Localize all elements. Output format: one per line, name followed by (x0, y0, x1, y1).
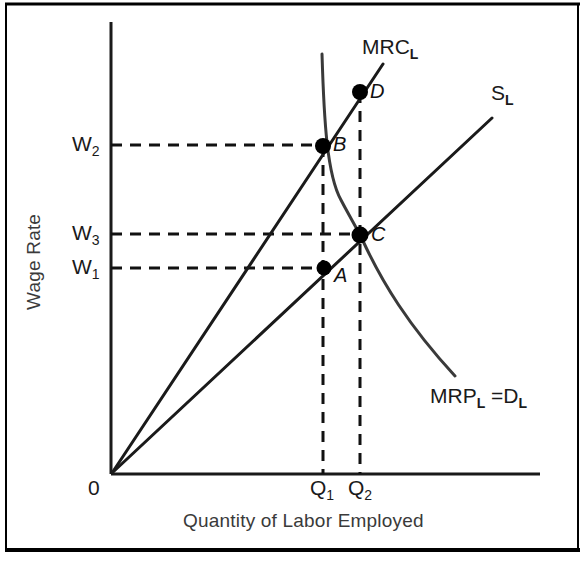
point-marker-a (317, 261, 332, 276)
curve-label-supply-base: S (491, 81, 505, 104)
y-tick-w2: W2 (72, 133, 100, 158)
curve-label-mrc-base: MRC (362, 35, 410, 58)
x-tick-q2-sub: 2 (364, 487, 372, 503)
curve-label-mrp-base: MRP (430, 384, 477, 407)
monopsony-labor-market-figure: Wage Rate Quantity of Labor Employed 0 W… (0, 0, 585, 562)
point-marker-b (315, 138, 331, 154)
x-tick-q2: Q2 (348, 477, 372, 502)
y-tick-w3-base: W (72, 221, 92, 244)
x-tick-q1-base: Q (310, 476, 326, 499)
origin-label: 0 (88, 477, 100, 498)
x-axis-title: Quantity of Labor Employed (183, 511, 424, 530)
y-tick-w3-sub: 3 (92, 232, 100, 248)
x-tick-q1: Q1 (310, 477, 334, 502)
supply-curve (112, 118, 492, 473)
curve-label-supply: SL (491, 82, 514, 107)
curve-label-supply-sub: L (505, 92, 514, 108)
point-label-c: C (371, 224, 385, 244)
curve-label-mrp-tail-sub: L (519, 395, 528, 411)
point-label-d: D (370, 81, 384, 101)
curve-label-mrc: MRCL (362, 36, 418, 61)
y-tick-w1: W1 (72, 256, 100, 281)
y-axis-title: Wage Rate (24, 214, 43, 310)
curve-label-mrp-tail: =D (485, 384, 518, 407)
curve-label-mrp-sub: L (477, 395, 486, 411)
point-label-a: A (334, 265, 347, 285)
curve-label-mrc-sub: L (410, 46, 419, 62)
point-marker-c (352, 227, 369, 244)
point-marker-d (352, 84, 368, 100)
y-tick-w2-sub: 2 (92, 143, 100, 159)
y-tick-w2-base: W (72, 132, 92, 155)
x-tick-q2-base: Q (348, 476, 364, 499)
point-label-b: B (333, 134, 346, 154)
x-tick-q1-sub: 1 (326, 487, 334, 503)
y-tick-w1-sub: 1 (92, 266, 100, 282)
y-tick-w1-base: W (72, 255, 92, 278)
y-tick-w3: W3 (72, 222, 100, 247)
curve-label-mrp: MRPL =DL (430, 385, 527, 410)
